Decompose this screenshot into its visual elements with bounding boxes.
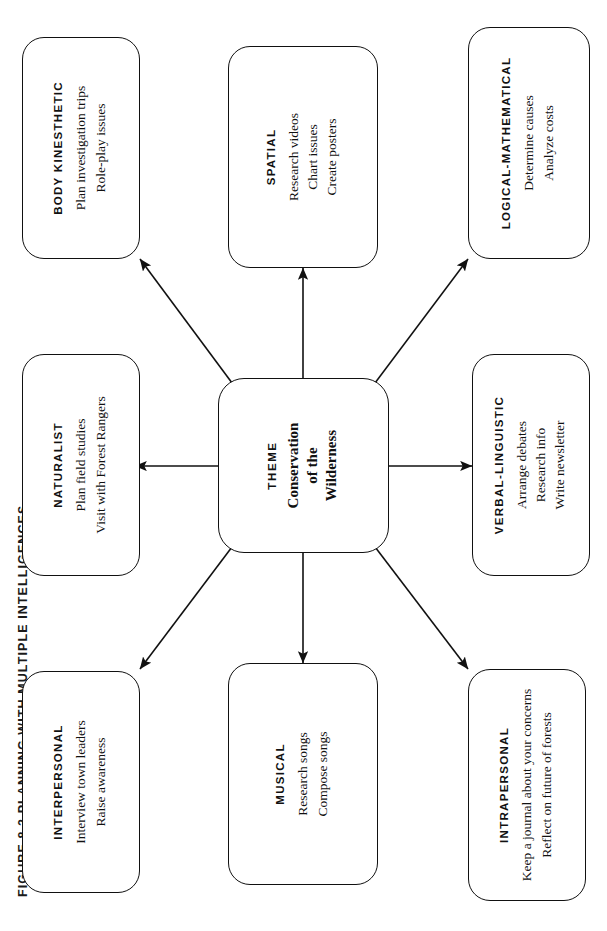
node-activity: Research songs [293,732,312,816]
connector-theme-to-intrapersonal [369,539,468,669]
node-activity: Chart issues [303,124,322,190]
node-logical-mathematical[interactable]: LOGICAL-MATHEMATICAL Determine causes An… [468,27,590,259]
node-category-label: VERBAL-LINGUISTIC [493,396,505,534]
node-activity: Research info [531,428,550,503]
node-category-label: NATURALIST [52,422,64,508]
node-theme[interactable]: THEME Conservation of the Wilderness [218,378,389,553]
theme-title-line: Conservation [284,423,303,509]
figure-page: FIGURE 8.2 PLANNING WITH MULTIPLE INTELL… [0,0,607,931]
node-activity: Keep a journal about your concerns [517,689,536,881]
connector-theme-to-logical-mathematical [369,259,468,391]
node-activity: Reflect on future of forests [537,712,556,857]
node-category-label: SPATIAL [265,129,277,186]
node-category-label: INTERPERSONAL [52,724,64,839]
node-intrapersonal[interactable]: INTRAPERSONAL Keep a journal about your … [468,669,586,901]
node-verbal-linguistic[interactable]: VERBAL-LINGUISTIC Arrange debates Resear… [472,354,590,576]
node-category-label: MUSICAL [274,743,286,805]
node-activity: Plan investigation trips [71,86,90,211]
node-activity: Raise awareness [91,738,110,827]
node-spatial[interactable]: SPATIAL Research videos Chart issues Cre… [228,46,378,268]
node-activity: Interview town leaders [71,720,90,844]
node-activity: Research videos [284,113,303,201]
theme-title-line: Wilderness [322,430,341,501]
node-activity: Write newsletter [550,420,569,509]
node-category-label: LOGICAL-MATHEMATICAL [500,57,512,230]
theme-title-line: of the [303,447,322,483]
connector-theme-to-interpersonal [140,539,238,669]
node-naturalist[interactable]: NATURALIST Plan field studies Visit with… [22,354,140,576]
node-activity: Compose songs [313,731,332,816]
node-activity: Create posters [322,119,341,196]
node-interpersonal[interactable]: INTERPERSONAL Interview town leaders Rai… [22,671,140,893]
node-body-kinesthetic[interactable]: BODY KINESTHETIC Plan investigation trip… [22,37,140,259]
node-category-label: INTRAPERSONAL [498,727,510,843]
node-activity: Plan field studies [71,419,90,512]
node-activity: Arrange debates [512,421,531,509]
node-activity: Visit with Forest Rangers [91,396,110,534]
node-category-label: BODY KINESTHETIC [52,81,64,215]
node-musical[interactable]: MUSICAL Research songs Compose songs [228,663,378,885]
node-activity: Determine causes [519,95,538,191]
theme-label: THEME [266,441,278,489]
diagram-canvas: INTERPERSONAL Interview town leaders Rai… [0,0,607,931]
connector-theme-to-body-kinesthetic [140,259,238,391]
node-activity: Role-play issues [91,104,110,193]
node-activity: Analyze costs [539,105,558,180]
